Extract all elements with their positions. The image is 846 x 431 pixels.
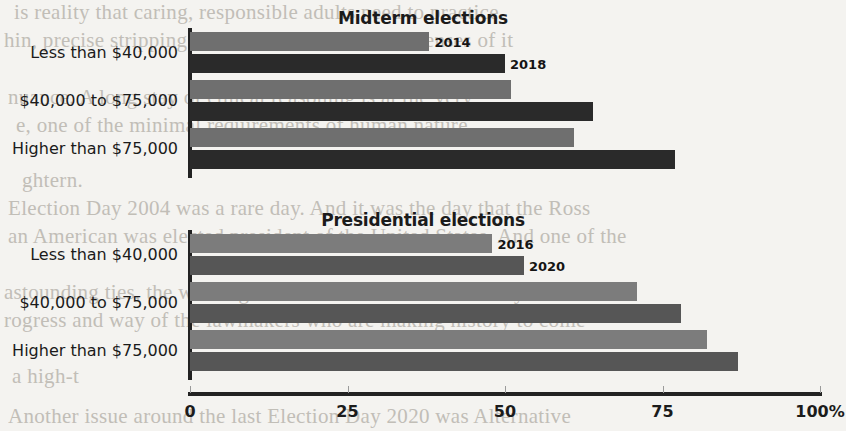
- bar-2020-2: [190, 352, 738, 371]
- x-axis-tick: [190, 386, 191, 393]
- category-label: Less than $40,000: [30, 43, 178, 62]
- x-axis-tick-label: 50: [494, 402, 516, 421]
- series-label-2014: 2014: [434, 35, 470, 50]
- bar-2020-0: [190, 256, 524, 275]
- x-axis-tick-label: 100%: [795, 402, 844, 421]
- chart-panel-midterm: Midterm elections Less than $40,00020142…: [0, 0, 846, 188]
- bar-2016-1: [190, 282, 637, 301]
- x-axis-tick-label: 0: [184, 402, 195, 421]
- bar-2014-1: [190, 80, 511, 99]
- chart-panel-presidential: Presidential elections Less than $40,000…: [0, 202, 846, 390]
- x-axis-tick: [663, 386, 664, 393]
- x-axis: 0255075100%: [0, 392, 846, 431]
- category-label: Higher than $75,000: [12, 341, 178, 360]
- bar-2016-2: [190, 330, 707, 349]
- plot-area-presidential: Less than $40,00020162020$40,000 to $75,…: [0, 230, 846, 390]
- bar-2018-0: [190, 54, 505, 73]
- bar-2020-1: [190, 304, 681, 323]
- x-axis-tick: [348, 386, 349, 393]
- series-label-2020: 2020: [529, 259, 565, 274]
- bar-2018-2: [190, 150, 675, 169]
- x-axis-tick: [505, 386, 506, 393]
- series-label-2018: 2018: [510, 57, 546, 72]
- x-axis-tick-label: 25: [336, 402, 358, 421]
- bar-2014-2: [190, 128, 574, 147]
- bar-2018-1: [190, 102, 593, 121]
- category-label: Higher than $75,000: [12, 139, 178, 158]
- chart-title-presidential: Presidential elections: [0, 210, 846, 230]
- x-axis-tick-label: 75: [651, 402, 673, 421]
- bar-2016-0: [190, 234, 492, 253]
- category-label: $40,000 to $75,000: [19, 293, 178, 312]
- series-label-2016: 2016: [497, 237, 533, 252]
- category-label: Less than $40,000: [30, 245, 178, 264]
- bar-2014-0: [190, 32, 429, 51]
- category-label: $40,000 to $75,000: [19, 91, 178, 110]
- chart-title-midterm: Midterm elections: [0, 8, 846, 28]
- plot-area-midterm: Less than $40,00020142018$40,000 to $75,…: [0, 28, 846, 188]
- x-axis-tick: [820, 386, 821, 393]
